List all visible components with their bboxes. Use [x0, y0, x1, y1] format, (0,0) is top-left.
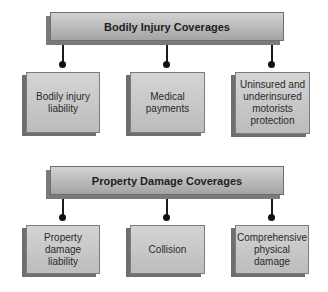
- bodily-injury-header: Bodily Injury Coverages: [50, 12, 284, 41]
- coverage-box-medical-payments: Medical payments: [130, 72, 205, 133]
- coverage-box-uninsured-motorists: Uninsured and underinsured motorists pro…: [235, 72, 310, 134]
- coverage-box-bodily-injury-liability: Bodily injury liability: [26, 72, 100, 133]
- property-damage-header: Property Damage Coverages: [50, 166, 284, 195]
- bodily-injury-title: Bodily Injury Coverages: [104, 21, 230, 33]
- coverage-box-property-damage-liability: Property damage liability: [26, 225, 100, 274]
- coverage-box-collision: Collision: [130, 225, 205, 274]
- connector-dot: [59, 61, 66, 68]
- connector-dot: [268, 214, 275, 221]
- coverage-box-comprehensive: Comprehensive physical damage: [235, 225, 309, 274]
- connector-dot: [59, 214, 66, 221]
- coverage-label: Comprehensive physical damage: [237, 232, 307, 268]
- connector-dot: [163, 214, 170, 221]
- coverage-label: Bodily injury liability: [35, 91, 91, 115]
- coverage-label: Property damage liability: [35, 232, 91, 268]
- coverage-label: Uninsured and underinsured motorists pro…: [238, 79, 307, 127]
- coverage-label: Medical payments: [140, 91, 196, 115]
- property-damage-title: Property Damage Coverages: [92, 175, 242, 187]
- connector-dot: [163, 61, 170, 68]
- coverage-label: Collision: [140, 244, 196, 256]
- connector-dot: [268, 61, 275, 68]
